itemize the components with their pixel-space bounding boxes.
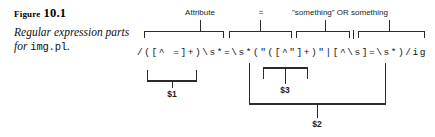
bracket-bare-something [358,20,425,38]
bracket-quoted-something [296,20,350,38]
bracket-capture-1 [147,70,197,88]
bracket-attribute [144,20,224,38]
bracket-capture-3 [263,67,308,84]
bracket-capture-2 [249,63,386,118]
bracket-overlay [0,0,435,137]
bracket-equals [229,20,292,38]
figure-panel: Figure 10.1 Regular expression parts for… [0,0,435,137]
